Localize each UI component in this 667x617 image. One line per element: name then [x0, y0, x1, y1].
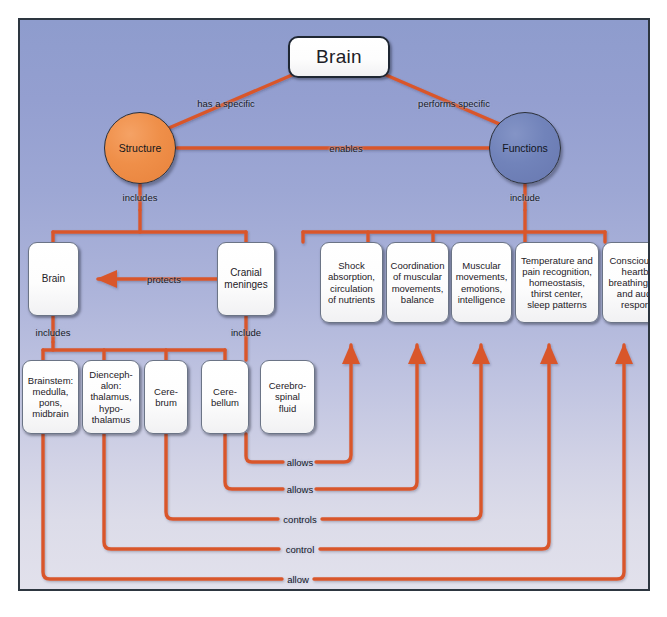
node-label: Muscular movements, emotions, intelligen…: [456, 260, 508, 304]
node-label: Shock absorption, circulation of nutrien…: [328, 260, 375, 304]
wire-diencephalon-out: [104, 434, 279, 549]
node-brainstem: Brainstem: medulla, pons, midbrain: [22, 360, 79, 434]
label-include-meninges: include: [231, 327, 261, 338]
node-cerebrospinal-fluid: Cerebro- spinal fluid: [260, 360, 315, 434]
wire-controls-muscular: [322, 345, 481, 519]
node-label: Brain: [42, 273, 65, 285]
wire-cerebrum-out: [166, 434, 278, 519]
node-cranial-meninges: Cranial meninges: [217, 242, 275, 316]
node-label: Brainstem: medulla, pons, midbrain: [28, 375, 73, 419]
label-include-functions: include: [510, 192, 540, 203]
wire-allow-consciousness: [314, 345, 624, 579]
node-label: Cere- brum: [154, 386, 178, 408]
node-shock-absorption: Shock absorption, circulation of nutrien…: [320, 242, 383, 323]
node-label: Cerebro- spinal fluid: [269, 380, 307, 413]
node-label: Coordination of muscular movements, bala…: [391, 260, 445, 304]
node-functions: Functions: [489, 112, 561, 184]
label-control-diencephalon: control: [286, 544, 315, 555]
node-label: Cranial meninges: [224, 267, 267, 290]
node-coordination: Coordination of muscular movements, bala…: [386, 242, 449, 323]
wire-allows-coordination: [316, 345, 417, 489]
diagram-canvas: Brain Structure Functions Brain Cranial …: [0, 0, 667, 617]
node-muscular-movements: Muscular movements, emotions, intelligen…: [451, 242, 512, 323]
label-allows-csf: allows: [287, 457, 313, 468]
node-cerebrum: Cere- brum: [144, 360, 188, 434]
node-cerebellum: Cere- bellum: [201, 360, 249, 434]
node-consciousness: Consciousness, heartbeat, breathing, vis…: [602, 242, 650, 323]
label-performs-specific: performs specific: [418, 98, 490, 109]
node-label: Functions: [502, 142, 548, 154]
wire-allows-shock: [316, 345, 351, 462]
node-label: Consciousness, heartbeat, breathing, vis…: [608, 255, 650, 310]
node-brain-structure: Brain: [28, 242, 79, 316]
node-label: Brain: [316, 46, 362, 68]
label-controls-cerebrum: controls: [283, 514, 316, 525]
diagram-frame: Brain Structure Functions Brain Cranial …: [18, 18, 650, 591]
node-label: Cere- bellum: [211, 386, 239, 408]
label-protects: protects: [147, 274, 181, 285]
node-diencephalon: Dienceph- alon: thalamus, hypo- thalamus: [82, 360, 140, 434]
label-allows-cerebellum: allows: [287, 484, 313, 495]
wire-csf-out: [246, 434, 283, 462]
node-label: Temperature and pain recognition, homeos…: [521, 255, 593, 310]
node-brain-title: Brain: [288, 36, 390, 78]
label-enables: enables: [329, 143, 362, 154]
label-has-a-specific: has a specific: [197, 98, 255, 109]
node-label: Structure: [119, 142, 162, 154]
label-includes-brain: includes: [36, 327, 71, 338]
node-structure: Structure: [104, 112, 176, 184]
label-allow-brainstem: allow: [287, 574, 309, 585]
label-includes-structure: includes: [123, 192, 158, 203]
node-label: Dienceph- alon: thalamus, hypo- thalamus: [89, 369, 132, 424]
node-temperature-pain: Temperature and pain recognition, homeos…: [515, 242, 599, 323]
